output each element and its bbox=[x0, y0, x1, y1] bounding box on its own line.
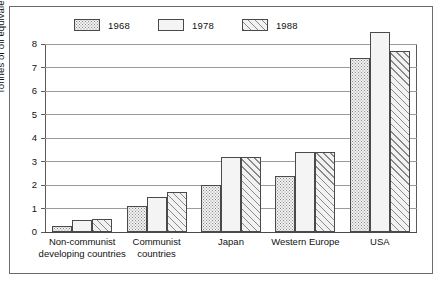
bar-group-bars bbox=[275, 44, 335, 232]
legend-item-1968: 1968 bbox=[74, 19, 130, 31]
y-tick-6 bbox=[41, 91, 45, 92]
bar-group-bars bbox=[127, 44, 187, 232]
bar-1988[interactable] bbox=[92, 219, 112, 232]
y-tick-2 bbox=[41, 185, 45, 186]
bar-1988[interactable] bbox=[167, 192, 187, 232]
bar-1978[interactable] bbox=[370, 32, 390, 232]
x-axis-line bbox=[45, 232, 417, 233]
x-category-label: USA bbox=[329, 236, 431, 248]
bar-1968[interactable] bbox=[201, 185, 221, 232]
bar-group-bars bbox=[350, 44, 410, 232]
bar-1988[interactable] bbox=[390, 51, 410, 232]
bar-1978[interactable] bbox=[147, 197, 167, 232]
chart-figure: 1968 1978 1988 Tonnes of oil equivalent … bbox=[0, 0, 441, 284]
bar-1968[interactable] bbox=[127, 206, 147, 232]
chart-legend: 1968 1978 1988 bbox=[74, 19, 326, 31]
bar-group bbox=[350, 44, 410, 232]
legend-label-1968: 1968 bbox=[108, 20, 130, 31]
bar-group-bars bbox=[52, 44, 112, 232]
bar-group bbox=[52, 44, 112, 232]
y-tick-label-8: 8 bbox=[15, 39, 37, 49]
bar-group-bars bbox=[201, 44, 261, 232]
bar-group bbox=[201, 44, 261, 232]
legend-label-1978: 1978 bbox=[192, 20, 214, 31]
bar-1978[interactable] bbox=[295, 152, 315, 232]
y-tick-4 bbox=[41, 138, 45, 139]
legend-swatch-hatch-icon bbox=[242, 19, 268, 31]
bar-1968[interactable] bbox=[275, 176, 295, 232]
legend-swatch-dots-icon bbox=[74, 19, 100, 31]
y-tick-0 bbox=[41, 232, 45, 233]
y-tick-1 bbox=[41, 208, 45, 209]
y-tick-8 bbox=[41, 44, 45, 45]
bar-group bbox=[275, 44, 335, 232]
bar-1968[interactable] bbox=[350, 58, 370, 232]
bar-1978[interactable] bbox=[72, 220, 92, 232]
bar-1988[interactable] bbox=[241, 157, 261, 232]
y-tick-label-3: 3 bbox=[15, 157, 37, 167]
plot-area: 012345678Non-communist developing countr… bbox=[45, 44, 417, 232]
y-tick-5 bbox=[41, 114, 45, 115]
y-tick-label-1: 1 bbox=[15, 204, 37, 214]
bar-1978[interactable] bbox=[221, 157, 241, 232]
y-tick-3 bbox=[41, 161, 45, 162]
y-tick-label-6: 6 bbox=[15, 86, 37, 96]
y-tick-label-2: 2 bbox=[15, 180, 37, 190]
legend-swatch-blank-icon bbox=[158, 19, 184, 31]
legend-label-1988: 1988 bbox=[276, 20, 298, 31]
bar-group bbox=[127, 44, 187, 232]
y-tick-label-5: 5 bbox=[15, 110, 37, 120]
y-tick-label-7: 7 bbox=[15, 63, 37, 73]
y-axis-title: Tonnes of oil equivalent bbox=[0, 0, 6, 94]
bar-1968[interactable] bbox=[52, 226, 72, 232]
y-tick-7 bbox=[41, 67, 45, 68]
y-tick-label-4: 4 bbox=[15, 133, 37, 143]
bar-1988[interactable] bbox=[315, 152, 335, 232]
legend-item-1988: 1988 bbox=[242, 19, 298, 31]
legend-item-1978: 1978 bbox=[158, 19, 214, 31]
